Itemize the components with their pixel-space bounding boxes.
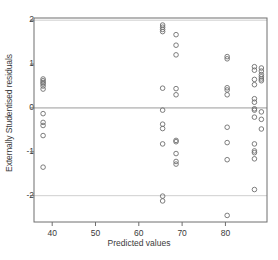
scatter-plot-figure: Externally Studentised residuals Predict… [0, 0, 278, 260]
data-point [174, 53, 179, 58]
data-point [41, 87, 46, 92]
data-point [160, 86, 165, 91]
data-point [160, 199, 165, 204]
data-point [252, 82, 257, 87]
data-point [252, 157, 257, 162]
data-point [41, 111, 46, 116]
data-point [225, 213, 230, 218]
data-point [225, 140, 230, 145]
data-point [41, 123, 46, 128]
data-point [259, 127, 264, 132]
data-point [41, 165, 46, 170]
data-point [252, 187, 257, 192]
data-point [174, 86, 179, 91]
axis-ticks [30, 20, 225, 226]
data-point [160, 142, 165, 147]
data-point [174, 92, 179, 97]
plot-frame [34, 18, 267, 222]
data-point [160, 122, 165, 127]
data-point [225, 125, 230, 130]
data-point [252, 142, 257, 147]
data-point [252, 115, 257, 120]
data-point [174, 43, 179, 48]
plot-canvas [0, 0, 278, 260]
data-point [259, 110, 264, 115]
data-point [252, 77, 257, 82]
axes-frame [34, 18, 267, 222]
reference-lines-group [34, 20, 267, 195]
data-points-group [41, 23, 264, 218]
data-point [160, 108, 165, 113]
data-point [225, 157, 230, 162]
data-point [225, 92, 230, 97]
data-point [174, 32, 179, 37]
data-point [160, 126, 165, 131]
data-point [259, 117, 264, 122]
data-point [174, 151, 179, 156]
data-point [41, 133, 46, 138]
